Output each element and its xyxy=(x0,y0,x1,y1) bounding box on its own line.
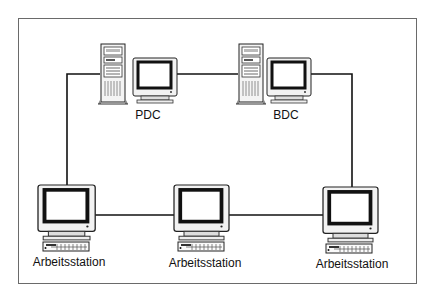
server-tower-icon xyxy=(236,44,266,104)
monitor-icon xyxy=(174,185,229,240)
workstation-2-label: Arbeitsstation xyxy=(169,256,242,270)
pdc-label: PDC xyxy=(135,108,160,122)
workstation-3 xyxy=(323,187,378,253)
bdc-label: BDC xyxy=(273,108,298,122)
workstation-1 xyxy=(38,185,95,251)
keyboard-icon xyxy=(43,242,89,251)
monitor-icon xyxy=(133,58,177,103)
workstation-1-label: Arbeitsstation xyxy=(33,255,106,269)
link-bdc-ws3 xyxy=(309,74,352,187)
monitor-icon xyxy=(267,58,311,103)
workstation-3-label: Arbeitsstation xyxy=(316,257,389,271)
workstation-2 xyxy=(174,185,229,251)
bdc-node xyxy=(236,44,311,104)
keyboard-icon xyxy=(178,242,224,251)
server-tower-icon xyxy=(98,44,128,104)
pdc-node xyxy=(98,44,177,104)
keyboard-icon xyxy=(326,244,372,253)
monitor-icon xyxy=(38,185,95,240)
monitor-icon xyxy=(323,187,378,242)
link-ws1-pdc xyxy=(67,74,100,186)
